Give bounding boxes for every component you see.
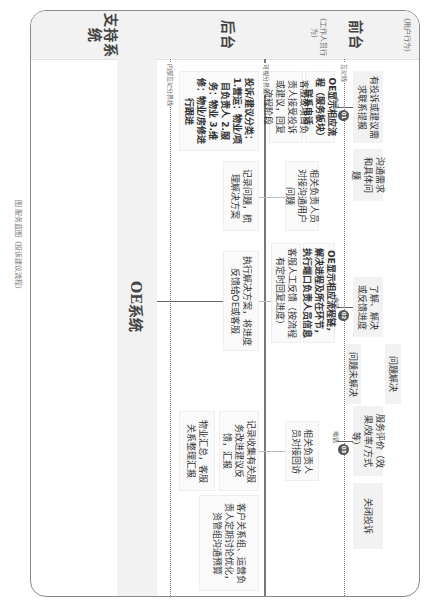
customer-step-close: 关闭投诉	[353, 483, 383, 549]
internal-line-label: 内部互动分界线	[166, 63, 175, 107]
customer-step-submit: 有投诉或建议需求联系提报	[353, 71, 383, 143]
staff-step-oe-chain: OE显示相应流程链，解决进程及所在环节，执行端口负责人员信息	[303, 243, 335, 343]
interaction-line-label: 互动线	[340, 63, 349, 83]
staff-step-accept: 客服或项目负责人接受投诉或建议，回复流程阶段	[269, 71, 303, 143]
lane-sub-staff: （工作人员行为）	[309, 11, 327, 59]
backstage-step-record: 记录问题，梳理解决方案	[223, 161, 259, 231]
lane-label-frontstage: 前台	[347, 11, 367, 59]
service-blueprint-canvas: （用户行为） 前台 （工作人员行为） 后台 支持系统 互动线 可视分界线 内部互…	[0, 0, 440, 610]
customer-step-communicate: 沟通需求和具体问题	[353, 149, 383, 201]
backstage-step-optimize: 客户关系组、运营负责人定期讨论优化，资管组沟通预算	[199, 495, 259, 591]
staff-step-contact: 相关负责人员对接沟通用户问题	[285, 161, 319, 231]
oe-system-label: OE系统	[127, 281, 147, 332]
step-badge-2: 02	[338, 310, 349, 321]
connector-feedback-execute	[259, 301, 271, 302]
customer-step-resolved: 问题解决	[385, 344, 401, 404]
interaction-line	[344, 59, 345, 596]
connector-oe-execute	[149, 301, 223, 302]
lane-label-support: 支持系统	[87, 11, 119, 59]
staff-step-revisit: 相关负责人员对接回访	[285, 421, 319, 481]
internal-interaction-line	[170, 59, 171, 596]
backstage-step-collect: 记录收集有关服务改进建议反馈，汇报	[219, 411, 259, 491]
connector-revisit-collect	[259, 451, 285, 452]
customer-step-evaluation: 服务评价（效果/效率/方式等）	[353, 406, 383, 476]
staff-step-manual-feedback: 客服人工反馈（按流程有定时回复进度）	[271, 243, 301, 343]
phone-label-3: 电话	[332, 431, 341, 443]
customer-step-progress: 了解、解决或反馈进度	[353, 277, 383, 337]
blueprint-frame: （用户行为） 前台 （工作人员行为） 后台 支持系统 互动线 可视分界线 内部互…	[30, 10, 420, 597]
backstage-step-execute: 执行解决方案，将进度反馈给OE或客服	[223, 251, 259, 351]
lane-sub-customer: （用户行为）	[402, 11, 411, 59]
lane-label-backstage: 后台	[219, 11, 239, 59]
connector-contact-record	[259, 197, 285, 198]
backstage-step-classify: 投诉/建议分类：1.营运：物业/项目负责人 2.服务：物业 3.维修：物业/房修…	[179, 71, 259, 151]
step-badge-3: 03	[338, 444, 349, 455]
visibility-line	[264, 59, 266, 596]
step-badge-1: 01	[338, 110, 349, 121]
backstage-step-summary: 物业汇总，客服关系整理汇报	[179, 411, 215, 491]
customer-step-unresolved: 问题未解决	[345, 344, 361, 404]
figure-caption: 图 服务蓝图（投诉建议流程）	[14, 200, 24, 293]
